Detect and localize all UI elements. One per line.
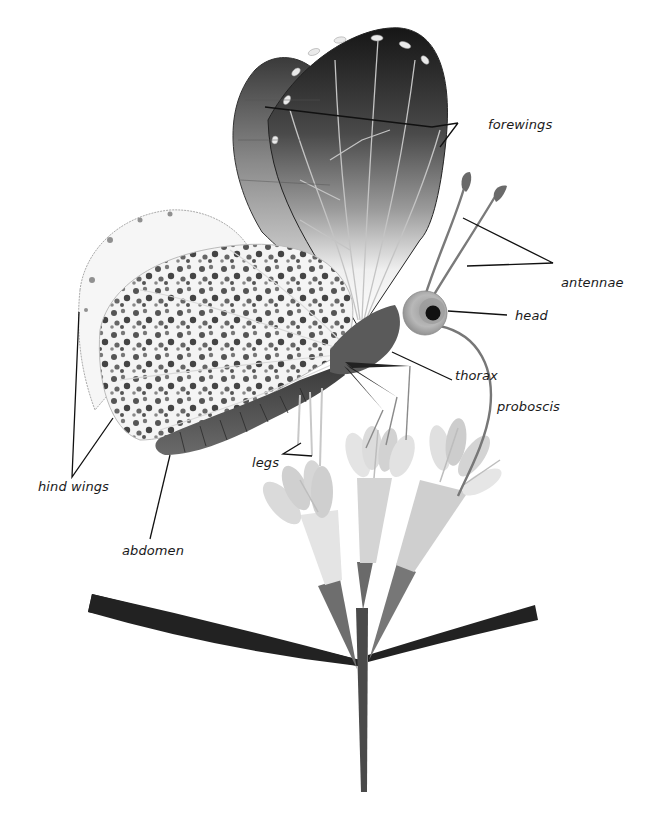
flower: [88, 417, 538, 792]
label-hind-wings: hind wings: [38, 480, 109, 493]
butterfly-anatomy-diagram: forewings antennae head thorax proboscis…: [0, 0, 650, 818]
label-head: head: [515, 309, 548, 322]
leader-legs: [283, 443, 312, 456]
eye: [426, 306, 441, 321]
label-forewings: forewings: [488, 118, 552, 131]
label-abdomen: abdomen: [122, 544, 184, 557]
butterfly: [79, 28, 507, 496]
label-legs: legs: [252, 456, 279, 469]
calyx-middle: [357, 562, 373, 610]
stem: [356, 608, 368, 792]
leader-abdomen: [150, 455, 170, 539]
label-proboscis: proboscis: [497, 400, 560, 413]
leader-head: [448, 311, 507, 315]
label-antennae: antennae: [561, 276, 624, 289]
label-thorax: thorax: [455, 369, 498, 382]
leader-antennae: [463, 218, 553, 266]
